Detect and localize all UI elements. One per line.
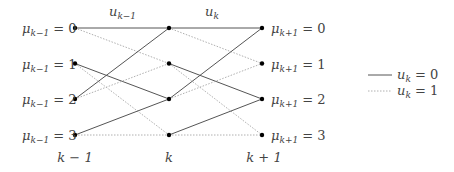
right-state-label-1: μk+1 = 1	[271, 57, 326, 74]
transition-label-u-k: uk	[205, 4, 219, 21]
trellis-edge-solid	[169, 28, 262, 99]
trellis-diagram: μk−1 = 0 μk−1 = 1 μk−1 = 2 μk−1 = 3 μk+1…	[0, 0, 454, 172]
trellis-node-c1-s3	[167, 133, 171, 137]
trellis-edge-dotted	[75, 64, 169, 136]
transition-label-u-k-minus-1: uk−1	[109, 4, 136, 21]
legend: uk = 0 uk = 1	[368, 67, 438, 100]
trellis-edge-dotted	[169, 28, 262, 64]
right-state-labels: μk+1 = 0 μk+1 = 1 μk+1 = 2 μk+1 = 3	[271, 21, 326, 145]
trellis-node-c2-s2	[260, 97, 264, 101]
trellis-node-c1-s0	[167, 26, 171, 30]
time-label-k-minus-1: k − 1	[57, 150, 92, 165]
left-state-label-3: μk−1 = 3	[22, 128, 77, 145]
left-state-labels: μk−1 = 0 μk−1 = 1 μk−1 = 2 μk−1 = 3	[22, 21, 77, 145]
legend-label-dotted: uk = 1	[397, 83, 438, 100]
trellis-node-c2-s1	[260, 61, 264, 65]
trellis-edge-dotted	[75, 28, 169, 64]
trellis-node-c2-s0	[260, 26, 264, 30]
time-label-k-plus-1: k + 1	[246, 150, 281, 165]
left-state-label-1: μk−1 = 1	[22, 57, 77, 74]
trellis-nodes	[73, 26, 264, 137]
left-state-label-2: μk−1 = 2	[22, 92, 77, 109]
left-state-label-0: μk−1 = 0	[22, 21, 77, 38]
trellis-edge-solid	[75, 99, 169, 135]
time-label-k: k	[165, 150, 173, 165]
trellis-edge-dotted	[169, 64, 262, 136]
right-state-label-3: μk+1 = 3	[271, 128, 326, 145]
trellis-edge-solid	[75, 28, 169, 99]
trellis-node-c2-s3	[260, 133, 264, 137]
trellis-edge-solid	[169, 99, 262, 135]
trellis-edges	[75, 28, 262, 135]
legend-label-solid: uk = 0	[397, 67, 438, 84]
trellis-node-c1-s1	[167, 61, 171, 65]
right-state-label-0: μk+1 = 0	[271, 21, 326, 38]
trellis-node-c1-s2	[167, 97, 171, 101]
right-state-label-2: μk+1 = 2	[271, 92, 326, 109]
